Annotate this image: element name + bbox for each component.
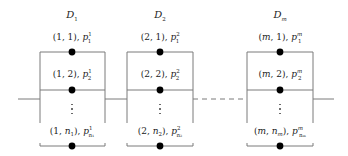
group-2-row-1-label: (2, 1), p21	[141, 33, 180, 42]
group-2-title: D2	[154, 10, 166, 20]
group-1-row-2-label: (1, 2), p12	[53, 70, 92, 79]
group-m-row-n-label: (m, nm), pmnₘ	[254, 127, 306, 136]
group-2-node-n	[157, 143, 164, 150]
group-m-ellipsis-icon	[279, 104, 281, 117]
group-1-title: D1	[66, 10, 78, 20]
group-1-row-1-label: (1, 1), p11	[53, 33, 92, 42]
group-1-row-n-label: (1, n1), p1n₁	[50, 127, 95, 136]
group-1-node-n	[69, 143, 76, 150]
group-m-node-2	[277, 87, 284, 94]
group-2-node-2	[157, 87, 164, 94]
group-1-ellipsis-icon	[71, 104, 73, 117]
group-m-row-2-label: (m, 2), pm2	[258, 70, 301, 79]
group-m-node-1	[277, 49, 284, 56]
group-m-node-n	[277, 143, 284, 150]
group-2-ellipsis-icon	[159, 104, 161, 117]
group-1-node-1	[69, 49, 76, 56]
group-m-title: Dm	[273, 10, 286, 20]
group-2-row-2-label: (2, 2), p22	[141, 70, 180, 79]
group-1-node-2	[69, 87, 76, 94]
group-2-node-1	[157, 49, 164, 56]
group-m-row-1-label: (m, 1), pm1	[258, 33, 301, 42]
group-2-row-n-label: (2, n2), p2n₂	[138, 127, 183, 136]
